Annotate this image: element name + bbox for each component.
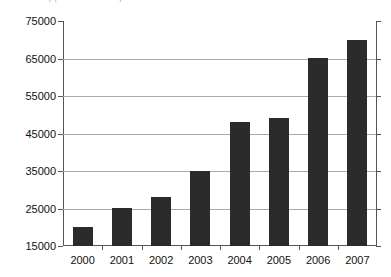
- bar-2004: [230, 122, 250, 246]
- y-axis-tick-label: 75000: [0, 16, 56, 27]
- y-axis-tick-right: [376, 246, 381, 247]
- y-axis-tick-label: 15000: [0, 241, 56, 252]
- y-axis-tick-label: 45000: [0, 129, 56, 140]
- plot-area: [63, 21, 377, 246]
- y-axis-tick-label: 55000: [0, 91, 56, 102]
- x-axis-tick: [259, 245, 260, 250]
- x-axis-tick-label-2002: 2002: [142, 254, 181, 266]
- y-axis-tick-label: 65000: [0, 54, 56, 65]
- cropped-caption-text: chart cropped above — partial text row: [8, 0, 187, 2]
- x-axis-tick-label-2003: 2003: [181, 254, 220, 266]
- y-axis-tick-label: 25000: [0, 204, 56, 215]
- bar-2007: [347, 40, 367, 246]
- x-axis-tick: [220, 245, 221, 250]
- bar-2003: [190, 171, 210, 246]
- x-axis-tick-label-2006: 2006: [299, 254, 338, 266]
- x-axis-tick-label-2004: 2004: [220, 254, 259, 266]
- cropped-caption-sliver: chart cropped above — partial text row: [0, 0, 391, 11]
- y-axis-tick: [58, 246, 63, 247]
- x-axis-tick-label-2005: 2005: [259, 254, 298, 266]
- bar-2001: [112, 208, 132, 246]
- bar-2000: [73, 227, 93, 246]
- x-axis-tick: [338, 245, 339, 250]
- y-axis-tick-label: 35000: [0, 166, 56, 177]
- bar-chart: chart cropped above — partial text row 1…: [0, 0, 391, 277]
- x-axis-tick: [102, 245, 103, 250]
- x-axis-tick: [299, 245, 300, 250]
- bars-group: [63, 21, 377, 246]
- bar-2006: [308, 58, 328, 246]
- x-axis-tick-label-2007: 2007: [338, 254, 377, 266]
- bar-2005: [269, 118, 289, 246]
- bar-2002: [151, 197, 171, 246]
- x-axis-tick-label-2001: 2001: [102, 254, 141, 266]
- x-axis-tick: [181, 245, 182, 250]
- x-axis-tick: [142, 245, 143, 250]
- x-axis-tick-label-2000: 2000: [63, 254, 102, 266]
